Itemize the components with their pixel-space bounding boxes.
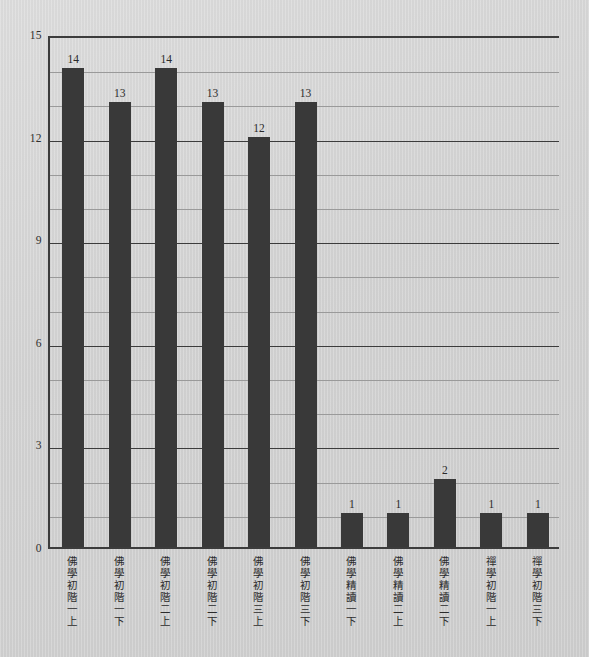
x-axis-category-label: 佛學初階一上 — [65, 556, 77, 628]
bar-value-label: 1 — [488, 498, 494, 510]
bar[interactable] — [62, 68, 84, 547]
bar-slot: 1 — [341, 38, 363, 547]
bar-slot: 13 — [295, 38, 317, 547]
bar[interactable] — [527, 513, 549, 547]
x-axis-category-label: 佛學精讀一下 — [344, 556, 356, 628]
y-axis-tick-label: 0 — [2, 542, 42, 554]
bar-value-label: 12 — [253, 122, 265, 134]
bar-value-label: 14 — [160, 53, 172, 65]
bar[interactable] — [202, 102, 224, 547]
y-axis-tick-label: 15 — [2, 29, 42, 41]
bar[interactable] — [387, 513, 409, 547]
x-axis-category-label: 佛學初階三下 — [298, 556, 310, 628]
bar-value-label: 13 — [114, 87, 126, 99]
x-axis-category-label: 佛學初階二上 — [158, 556, 170, 628]
bar-slot: 14 — [62, 38, 84, 547]
bar[interactable] — [109, 102, 131, 547]
bar-slot: 13 — [109, 38, 131, 547]
bar-value-label: 1 — [349, 498, 355, 510]
bar-value-label: 2 — [442, 464, 448, 476]
bar-value-label: 1 — [535, 498, 541, 510]
bar-value-label: 13 — [207, 87, 219, 99]
bar-slot: 2 — [434, 38, 456, 547]
x-axis-category-label: 佛學初階二下 — [205, 556, 217, 628]
bar[interactable] — [480, 513, 502, 547]
bar[interactable] — [248, 137, 270, 547]
bar[interactable] — [155, 68, 177, 547]
bar[interactable] — [341, 513, 363, 547]
bar-slot: 1 — [527, 38, 549, 547]
x-axis-category-label: 禪學初階三下 — [530, 556, 542, 628]
y-axis-tick-label: 6 — [2, 337, 42, 349]
bar-value-label: 1 — [396, 498, 402, 510]
bar-slot: 13 — [202, 38, 224, 547]
x-axis-category-label: 佛學精讀二上 — [391, 556, 403, 628]
x-axis-category-label: 佛學初階一下 — [112, 556, 124, 628]
bar-chart: 03691215 14131413121311211 佛學初階一上佛學初階一下佛… — [0, 0, 589, 657]
bar-slot: 1 — [387, 38, 409, 547]
y-axis-tick-label: 3 — [2, 439, 42, 451]
bar-slot: 14 — [155, 38, 177, 547]
bar[interactable] — [295, 102, 317, 547]
x-axis-category-label: 禪學初階一上 — [484, 556, 496, 628]
bar-value-label: 13 — [300, 87, 312, 99]
x-axis-category-label: 佛學初階三上 — [251, 556, 263, 628]
y-axis-tick-label: 9 — [2, 234, 42, 246]
bar-value-label: 14 — [67, 53, 79, 65]
chart-page: 03691215 14131413121311211 佛學初階一上佛學初階一下佛… — [0, 0, 589, 657]
plot-area: 14131413121311211 — [48, 36, 559, 549]
x-axis-category-label: 佛學精讀二下 — [437, 556, 449, 628]
bar-slot: 1 — [480, 38, 502, 547]
bar-slot: 12 — [248, 38, 270, 547]
bar[interactable] — [434, 479, 456, 547]
y-axis-tick-label: 12 — [2, 132, 42, 144]
